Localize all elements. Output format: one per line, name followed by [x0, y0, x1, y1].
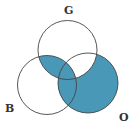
label-b: B: [5, 102, 14, 115]
label-g: G: [64, 4, 73, 17]
venn-diagram: G B O: [0, 0, 138, 123]
label-o: O: [119, 111, 129, 123]
